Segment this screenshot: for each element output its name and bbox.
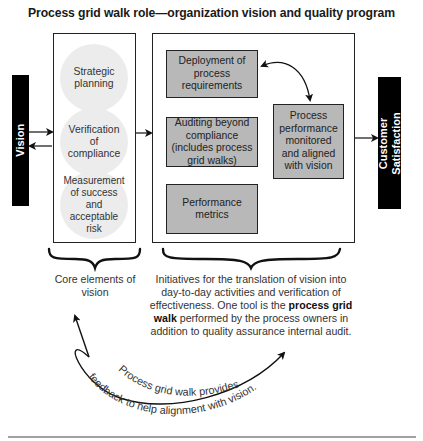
- feedback-text-line1: Process grid walk provides: [117, 363, 241, 398]
- initiatives-caption-part2: performed by the process owners in addit…: [151, 312, 352, 337]
- core-elements-caption: Core elements of vision: [52, 273, 138, 299]
- initiatives-caption: Initiatives for the translation of visio…: [146, 273, 356, 338]
- brace-initiatives: [163, 249, 340, 268]
- brace-core-elements: [49, 249, 140, 268]
- double-arrow-deployment-process: [262, 63, 310, 100]
- connectors-layer: Process grid walk provides feedback to h…: [0, 0, 423, 441]
